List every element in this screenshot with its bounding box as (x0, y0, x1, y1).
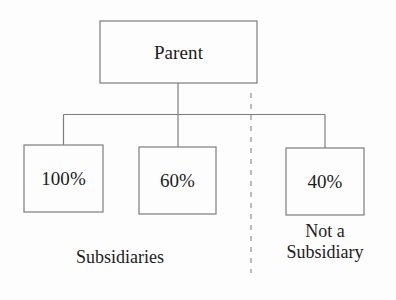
caption-not-a-subsidiary-line1: Not a (265, 221, 385, 242)
caption-not-a-subsidiary-line2: Subsidiary (265, 242, 385, 263)
non-subsidiary-label-40: 40% (286, 148, 364, 215)
parent-box-label: Parent (100, 21, 257, 83)
caption-subsidiaries: Subsidiaries (40, 247, 200, 268)
subsidiary-label-100: 100% (24, 145, 103, 212)
subsidiary-label-60: 60% (139, 147, 216, 214)
caption-not-a-subsidiary: Not a Subsidiary (265, 221, 385, 263)
ownership-diagram: Parent 100% 60% 40% Subsidiaries Not a S… (0, 0, 396, 300)
